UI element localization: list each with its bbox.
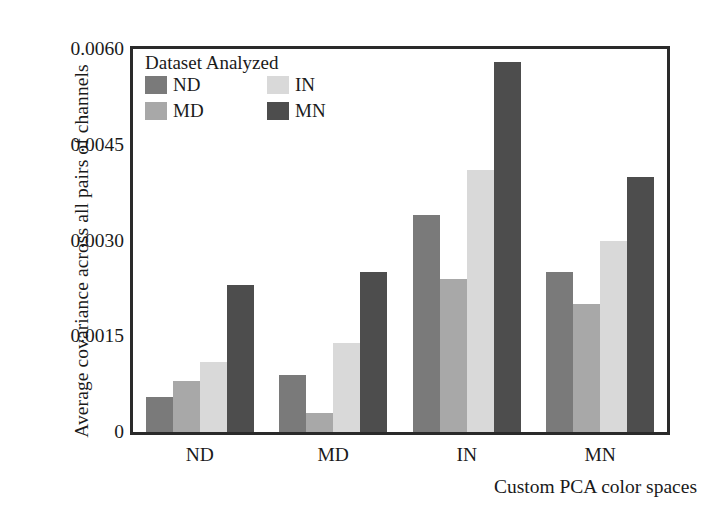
legend-entry-label: MD (173, 101, 204, 121)
y-axis-tick-label: 0.0045 (28, 134, 124, 156)
legend-swatch-icon (145, 102, 167, 120)
x-axis-tick-labels: NDMDINMN (130, 444, 670, 474)
x-axis-tick-label: MD (273, 444, 393, 466)
legend-swatch-icon (267, 76, 289, 94)
bar-in-nd (413, 215, 440, 432)
bar-mn-nd (546, 272, 573, 432)
legend-title: Dataset Analyzed (145, 52, 365, 73)
legend-entry-in: IN (267, 75, 365, 95)
bar-mn-in (600, 241, 627, 433)
bar-nd-md (173, 381, 200, 432)
legend-entry-mn: MN (267, 101, 365, 121)
bar-nd-nd (146, 397, 173, 432)
bar-nd-in (200, 362, 227, 432)
y-axis-tick-label: 0.0060 (28, 38, 124, 60)
bar-nd-mn (227, 285, 254, 432)
legend-swatch-icon (267, 102, 289, 120)
y-axis-tick-labels: 00.00150.00300.00450.0060 (0, 0, 124, 522)
bar-chart-figure: Average covariance across all pairs of c… (0, 0, 704, 522)
y-axis-tick-label: 0.0015 (28, 325, 124, 347)
legend-swatch-icon (145, 76, 167, 94)
y-axis-tick-label: 0.0030 (28, 230, 124, 252)
legend-entry-md: MD (145, 101, 243, 121)
legend-entries: NDINMDMN (145, 75, 365, 121)
bar-in-in (467, 170, 494, 432)
bar-mn-mn (627, 177, 654, 432)
x-axis-title: Custom PCA color spaces (0, 476, 697, 498)
legend-entry-nd: ND (145, 75, 243, 95)
bar-mn-md (573, 304, 600, 432)
bar-md-mn (360, 272, 387, 432)
x-axis-tick-label: MN (540, 444, 660, 466)
bar-md-md (306, 413, 333, 432)
legend-entry-label: IN (295, 75, 315, 95)
legend: Dataset Analyzed NDINMDMN (145, 52, 365, 121)
y-axis-tick-label: 0 (28, 421, 124, 443)
x-axis-tick-label: ND (140, 444, 260, 466)
x-axis-tick-label: IN (407, 444, 527, 466)
legend-entry-label: ND (173, 75, 200, 95)
bar-md-nd (279, 375, 306, 432)
bar-in-mn (494, 62, 521, 432)
bar-md-in (333, 343, 360, 432)
bar-in-md (440, 279, 467, 432)
legend-entry-label: MN (295, 101, 326, 121)
